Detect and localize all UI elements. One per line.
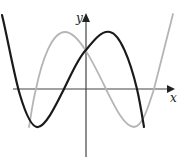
x-axis-label: x — [170, 91, 177, 105]
gray-curve — [29, 14, 173, 127]
y-axis-label: y — [75, 11, 83, 25]
function-graph: x y — [0, 0, 177, 157]
y-axis-arrow-icon — [82, 13, 90, 22]
black-curve — [2, 15, 144, 127]
